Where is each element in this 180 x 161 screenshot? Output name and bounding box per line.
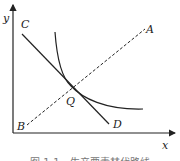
label-d: D (112, 118, 122, 131)
x-axis-label: x (162, 139, 169, 152)
y-axis-label: y (2, 12, 10, 25)
figure-caption: 图 1-1 生产要素替代路线 (30, 156, 150, 161)
label-c: C (21, 18, 30, 31)
label-b: B (16, 120, 25, 133)
line-ba (27, 29, 145, 125)
label-q: Q (66, 95, 75, 108)
diagram-figure: y x C D A B Q 图 1-1 生产要素替代路线 (0, 0, 180, 161)
label-a: A (145, 23, 154, 36)
